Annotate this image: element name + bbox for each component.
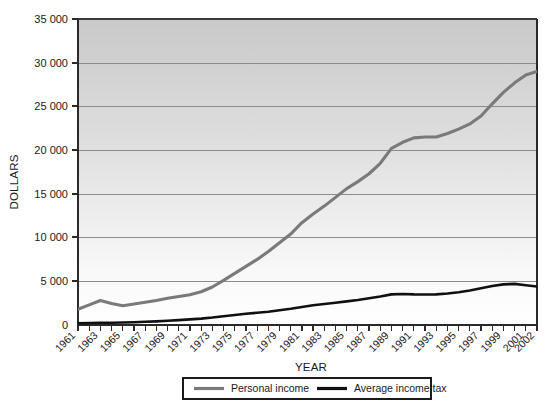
y-tick-label-35000: 35 000	[34, 13, 68, 25]
x-tick-label-1975: 1975	[209, 329, 234, 354]
x-tick-label-1977: 1977	[232, 329, 257, 354]
y-tick-label-10000: 10 000	[34, 231, 68, 243]
x-tick-label-1967: 1967	[120, 329, 145, 354]
y-tick-label-30000: 30 000	[34, 57, 68, 69]
x-tick-label-1993: 1993	[411, 329, 436, 354]
x-tick-label-1971: 1971	[164, 329, 189, 354]
plot-area-background	[78, 19, 537, 325]
x-tick-label-1973: 1973	[187, 329, 212, 354]
legend-label-average-income-tax: Average income tax	[354, 382, 447, 394]
y-tick-label-20000: 20 000	[34, 144, 68, 156]
x-axis-title: YEAR	[295, 361, 327, 373]
y-axis-title: DOLLARS	[8, 154, 20, 209]
x-tick-label-1999: 1999	[478, 329, 503, 354]
x-tick-label-1991: 1991	[388, 329, 413, 354]
y-tick-label-0: 0	[62, 319, 68, 331]
y-axis-tick-labels: 35 000 30 000 25 000 20 000 15 000 10 00…	[34, 13, 68, 331]
x-tick-label-1985: 1985	[321, 329, 346, 354]
x-tick-label-1981: 1981	[276, 329, 301, 354]
x-tick-label-1987: 1987	[343, 329, 368, 354]
x-tick-label-1963: 1963	[75, 329, 100, 354]
x-tick-label-1989: 1989	[366, 329, 391, 354]
x-tick-label-1983: 1983	[299, 329, 324, 354]
chart-container: 35 000 30 000 25 000 20 000 15 000 10 00…	[0, 0, 554, 414]
y-tick-label-15000: 15 000	[34, 188, 68, 200]
y-tick-label-25000: 25 000	[34, 100, 68, 112]
y-axis-ticks	[72, 19, 78, 281]
x-tick-label-1961: 1961	[52, 329, 77, 354]
x-tick-label-1997: 1997	[455, 329, 480, 354]
y-tick-label-5000: 5 000	[40, 275, 68, 287]
line-chart: 35 000 30 000 25 000 20 000 15 000 10 00…	[0, 0, 554, 414]
x-axis-ticks	[78, 325, 537, 331]
legend: Personal income Average income tax	[183, 378, 447, 399]
legend-label-personal-income: Personal income	[231, 382, 309, 394]
x-tick-label-1979: 1979	[254, 329, 279, 354]
x-tick-label-1965: 1965	[97, 329, 122, 354]
x-tick-label-1969: 1969	[142, 329, 167, 354]
x-axis-tick-labels: 1961196319651967196919711973197519771979…	[52, 329, 536, 354]
x-tick-label-1995: 1995	[433, 329, 458, 354]
